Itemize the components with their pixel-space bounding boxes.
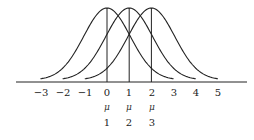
- mu-symbols: μ μ μ: [104, 102, 155, 112]
- mu-indices: 1 2 3: [104, 117, 155, 128]
- tick-label: −1: [78, 87, 93, 98]
- mu-symbol-1: μ: [104, 102, 110, 112]
- tick-label: 4: [193, 87, 199, 98]
- tick-label: 0: [104, 87, 110, 98]
- tick-label: −3: [34, 87, 49, 98]
- mu-index-2: 2: [126, 117, 132, 128]
- mu-symbol-3: μ: [149, 102, 155, 112]
- tick-labels: −3 −2 −1 0 1 2 3 4 5: [34, 87, 222, 98]
- mean-lines: [107, 8, 151, 82]
- mu-symbol-2: μ: [126, 102, 132, 112]
- tick-label: 3: [171, 87, 177, 98]
- tick-label: 5: [215, 87, 221, 98]
- tick-label: −2: [56, 87, 71, 98]
- mu-index-3: 3: [149, 117, 155, 128]
- normal-curves-chart: −3 −2 −1 0 1 2 3 4 5 μ μ μ 1 2 3: [0, 0, 254, 140]
- tick-label: 1: [126, 87, 132, 98]
- mu-index-1: 1: [104, 117, 110, 128]
- tick-label: 2: [149, 87, 155, 98]
